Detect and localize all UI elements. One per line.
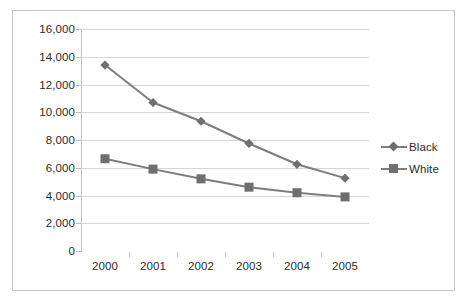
data-point-square-icon bbox=[245, 183, 254, 192]
x-axis-tick bbox=[177, 252, 178, 257]
data-point-square-icon bbox=[149, 165, 158, 174]
legend-label-black: Black bbox=[407, 141, 438, 153]
data-point-diamond-icon bbox=[292, 160, 301, 169]
legend-item-white[interactable]: White bbox=[381, 158, 455, 180]
x-axis-tick bbox=[129, 252, 130, 257]
x-axis-tick-label: 2002 bbox=[188, 260, 214, 272]
y-axis-ticks bbox=[13, 29, 81, 251]
x-axis-tick-label: 2001 bbox=[140, 260, 166, 272]
x-axis-tick-label: 2000 bbox=[92, 260, 118, 272]
x-axis-tick bbox=[225, 252, 226, 257]
legend-label-white: White bbox=[407, 163, 439, 175]
chart-legend: Black White bbox=[381, 136, 455, 180]
legend-marker-diamond-icon bbox=[381, 140, 407, 154]
x-axis-tick bbox=[321, 252, 322, 257]
chart-frame: 16,00014,00012,00010,0008,0006,0004,0002… bbox=[12, 10, 455, 291]
series-white bbox=[101, 154, 350, 201]
data-point-square-icon bbox=[197, 174, 206, 183]
data-point-square-icon bbox=[341, 192, 350, 201]
data-point-square-icon bbox=[101, 154, 110, 163]
x-axis-tick-label: 2004 bbox=[284, 260, 310, 272]
data-point-diamond-icon bbox=[340, 174, 349, 183]
data-point-diamond-icon bbox=[244, 139, 253, 148]
series-line bbox=[105, 65, 345, 178]
x-axis-tick-label: 2003 bbox=[236, 260, 262, 272]
legend-item-black[interactable]: Black bbox=[381, 136, 455, 158]
data-point-diamond-icon bbox=[196, 117, 205, 126]
x-axis-tick bbox=[273, 252, 274, 257]
data-point-square-icon bbox=[293, 188, 302, 197]
x-axis-ticks bbox=[81, 252, 369, 258]
series-layer bbox=[81, 29, 369, 251]
x-axis-tick-label: 2005 bbox=[332, 260, 358, 272]
series-line bbox=[105, 159, 345, 197]
legend-marker-square-icon bbox=[381, 162, 407, 176]
series-black bbox=[100, 60, 349, 182]
x-axis-labels: 200020012002200320042005 bbox=[81, 260, 369, 280]
